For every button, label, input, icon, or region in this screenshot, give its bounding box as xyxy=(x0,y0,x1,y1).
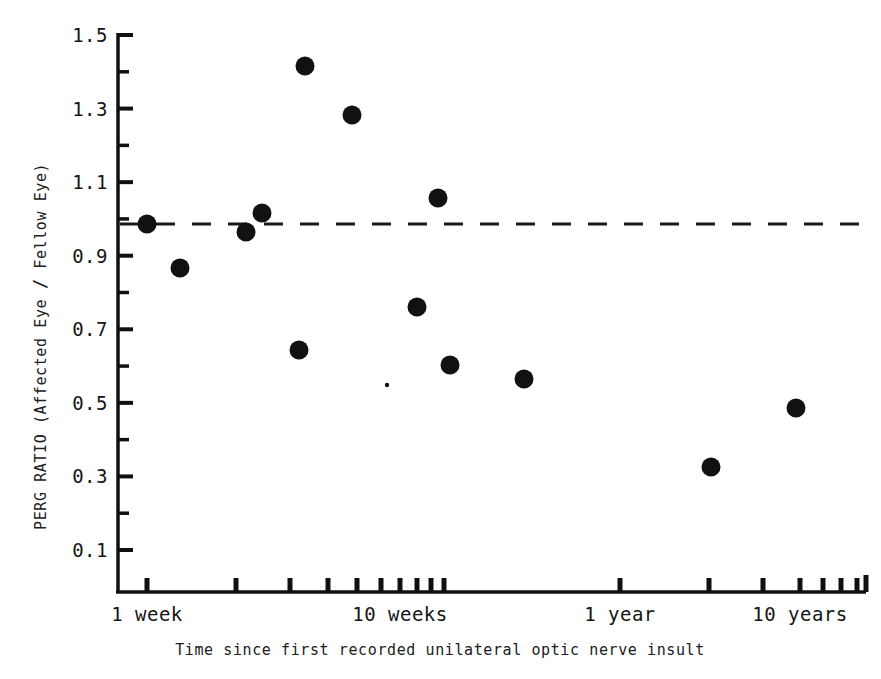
data-point xyxy=(237,223,256,242)
y-axis-tick-label: 0.3 xyxy=(72,465,108,487)
data-point xyxy=(296,57,315,76)
y-axis-tick-label: 1.3 xyxy=(72,98,108,120)
x-axis-tick-label: 1 year xyxy=(584,603,656,625)
data-point xyxy=(515,370,534,389)
data-point xyxy=(408,298,427,317)
x-axis-title: Time since first recorded unilateral opt… xyxy=(175,641,705,659)
data-point xyxy=(138,215,157,234)
data-point xyxy=(171,259,190,278)
chart-canvas: PERG RATIO (Affected Eye / Fellow Eye) 0… xyxy=(0,0,881,679)
perg-ratio-scatter-chart: PERG RATIO (Affected Eye / Fellow Eye) 0… xyxy=(0,0,881,679)
x-axis-tick-label: 10 years xyxy=(752,603,848,625)
y-axis-title-prefix: PERG RATIO (Affected Eye xyxy=(32,289,50,530)
data-point xyxy=(441,356,460,375)
y-axis-title-suffix: Fellow Eye) xyxy=(32,163,50,279)
y-axis-title-slash: / xyxy=(30,278,50,289)
data-point xyxy=(787,399,806,418)
svg-text:PERG RATIO (Affected Eye / Fe: PERG RATIO (Affected Eye / Fellow Eye) xyxy=(30,163,50,530)
data-point-speck xyxy=(385,383,389,387)
x-axis-ticks xyxy=(147,575,866,592)
y-axis-title: PERG RATIO (Affected Eye / Fellow Eye) xyxy=(30,163,50,530)
y-axis-tick-label: 0.9 xyxy=(72,245,108,267)
y-axis-tick-label: 0.5 xyxy=(72,392,108,414)
data-point xyxy=(343,106,362,125)
x-axis-tick-labels: 1 week10 weeks1 year10 years xyxy=(111,603,848,625)
y-axis-tick-label: 0.1 xyxy=(72,539,108,561)
x-axis-tick-label: 10 weeks xyxy=(352,603,448,625)
data-points-group xyxy=(138,57,806,477)
x-axis-tick-label: 1 week xyxy=(111,603,183,625)
y-axis-tick-label: 0.7 xyxy=(72,318,108,340)
data-point xyxy=(429,189,448,208)
data-point xyxy=(702,458,721,477)
y-axis-tick-label: 1.5 xyxy=(72,24,108,46)
data-point xyxy=(253,204,272,223)
y-axis-tick-label: 1.1 xyxy=(72,171,108,193)
data-point xyxy=(290,341,309,360)
